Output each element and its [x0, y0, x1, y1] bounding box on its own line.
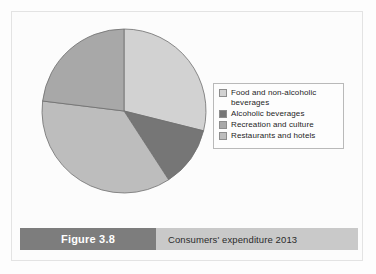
legend-swatch-restaurants [219, 132, 227, 140]
legend-swatch-food [219, 89, 227, 97]
figure-caption-bar: Figure 3.8 Consumers' expenditure 2013 [20, 228, 358, 250]
legend-item[interactable]: Alcoholic beverages [219, 109, 339, 119]
pie-slice [43, 29, 124, 111]
legend-item-label: Alcoholic beverages [231, 109, 305, 119]
legend-item[interactable]: Food and non-alcoholic beverages [219, 88, 339, 108]
legend-item-label: Recreation and culture [231, 120, 314, 130]
legend-item[interactable]: Recreation and culture [219, 120, 339, 130]
figure-container: Food and non-alcoholic beverages Alcohol… [0, 0, 376, 274]
figure-caption-block: Consumers' expenditure 2013 [156, 228, 358, 250]
legend-item[interactable]: Restaurants and hotels [219, 131, 339, 141]
figure-number-block: Figure 3.8 [20, 228, 156, 250]
legend-item-label: Restaurants and hotels [231, 131, 315, 141]
pie-chart [30, 20, 220, 205]
figure-caption-text: Consumers' expenditure 2013 [168, 234, 297, 245]
legend-item-label: Food and non-alcoholic beverages [231, 88, 316, 108]
legend-swatch-recreation [219, 121, 227, 129]
pie-slices [42, 29, 206, 193]
legend-swatch-alcoholic [219, 110, 227, 118]
chart-legend: Food and non-alcoholic beverages Alcohol… [213, 83, 344, 149]
figure-number-text: Figure 3.8 [61, 233, 115, 245]
